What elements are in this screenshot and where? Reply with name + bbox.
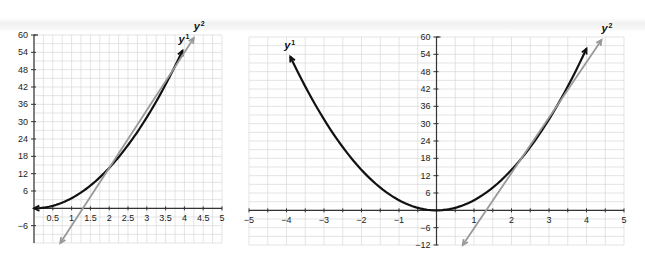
series-label-y2: y	[601, 22, 609, 34]
x-tick-label: 5	[621, 215, 626, 225]
x-tick-label: 3	[144, 213, 149, 223]
series-y2: y2	[463, 22, 613, 245]
x-tick-label: −2	[356, 215, 366, 225]
y-tick-label: 54	[18, 47, 28, 57]
y-tick-label: −6	[420, 223, 430, 233]
y-tick-label: 48	[18, 65, 28, 75]
x-tick-label: 2.5	[122, 213, 135, 223]
x-tick-label: 2	[107, 213, 112, 223]
x-tick-label: 2	[509, 215, 514, 225]
x-tick-label: 1.5	[84, 213, 97, 223]
x-tick-label: 3.5	[159, 213, 172, 223]
y-tick-label: 12	[18, 169, 28, 179]
charts-canvas: 0.511.522.533.544.556054484236302418126−…	[0, 0, 645, 266]
y-tick-label: −6	[18, 221, 28, 231]
y-tick-label: 54	[420, 49, 430, 59]
x-tick-label: −1	[394, 215, 404, 225]
y-tick-label: 60	[18, 30, 28, 40]
y-tick-label: 42	[18, 82, 28, 92]
x-tick-label: 3	[546, 215, 551, 225]
y-tick-label: 18	[420, 153, 430, 163]
y-tick-label: 30	[420, 119, 430, 129]
y-tick-label: −12	[415, 240, 430, 250]
x-tick-label: −3	[319, 215, 329, 225]
y-tick-label: 24	[18, 134, 28, 144]
x-tick-label: 5	[219, 213, 224, 223]
y-tick-label: 48	[420, 67, 430, 77]
right-chart: −5−4−3−2−1123456054484236302418126−6−12y…	[244, 22, 627, 250]
y-tick-label: 60	[420, 32, 430, 42]
y-tick-label: 18	[18, 151, 28, 161]
y-tick-label: 6	[23, 186, 28, 196]
y-tick-label: 30	[18, 117, 28, 127]
y-tick-label: 36	[420, 101, 430, 111]
x-tick-label: 4.5	[197, 213, 210, 223]
x-tick-label: 4	[584, 215, 589, 225]
y-tick-label: 6	[425, 188, 430, 198]
series-y2: y2	[60, 20, 204, 243]
series-label-sup: 1	[186, 33, 190, 40]
series-label-y2: y	[193, 20, 201, 32]
x-tick-label: −4	[281, 215, 291, 225]
series-label-y1: y	[178, 33, 186, 45]
series-label-sup: 2	[201, 20, 205, 27]
series-label-y1: y	[283, 39, 291, 51]
y-tick-label: 36	[18, 99, 28, 109]
x-tick-label: 4	[182, 213, 187, 223]
x-tick-label: −5	[244, 215, 254, 225]
x-tick-label: 0.5	[47, 213, 60, 223]
series-label-sup: 1	[291, 39, 295, 46]
y-tick-label: 12	[420, 171, 430, 181]
x-tick-label: 1	[471, 215, 476, 225]
left-chart: 0.511.522.533.544.556054484236302418126−…	[18, 20, 225, 243]
series-label-sup: 2	[609, 22, 613, 29]
y-tick-label: 24	[420, 136, 430, 146]
y-tick-label: 42	[420, 84, 430, 94]
